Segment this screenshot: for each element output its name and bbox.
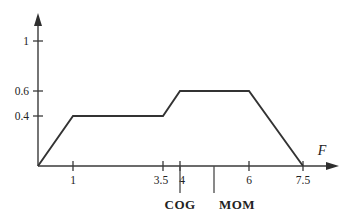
y-tick-label-1: 1 [23,35,29,47]
membership-function-chart: 1 0.6 0.4 1 3.5 4 6 7.5 COG MOM F [0,0,349,223]
x-tick-label-3p5: 3.5 [154,174,169,186]
y-tick-label-0p6: 0.6 [15,85,30,97]
x-tick-label-7p5: 7.5 [296,174,311,186]
chart-canvas: 1 0.6 0.4 1 3.5 4 6 7.5 COG MOM F [0,0,349,223]
cog-label: COG [165,197,196,212]
x-axis-arrowhead [326,162,339,170]
y-tick-label-0p4: 0.4 [15,110,30,122]
membership-curve [38,91,303,166]
x-tick-label-1: 1 [70,174,76,186]
mom-label: MOM [219,197,255,212]
y-axis-arrowhead [34,13,42,26]
x-tick-label-6: 6 [246,174,252,186]
x-axis-name-label: F [317,143,327,158]
